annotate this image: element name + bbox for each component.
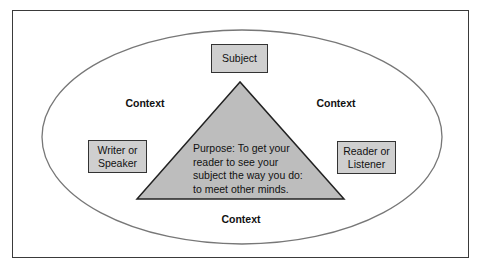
purpose-line-4: to meet other minds. [193, 183, 323, 197]
context-label-left: Context [125, 97, 164, 109]
reader-label-line-1: Reader or [343, 145, 390, 158]
context-label-bottom: Context [221, 213, 260, 225]
writer-speaker-box: Writer or Speaker [88, 140, 147, 173]
reader-label-line-2: Listener [348, 158, 385, 171]
diagram-shapes [0, 0, 480, 267]
context-label-right: Context [316, 97, 355, 109]
purpose-line-1: Purpose: To get your [193, 142, 323, 156]
writer-label-line-1: Writer or [97, 144, 137, 157]
purpose-text: Purpose: To get your reader to see your … [193, 142, 323, 196]
writer-label-line-2: Speaker [98, 157, 137, 170]
purpose-line-3: subject the way you do: [193, 169, 323, 183]
subject-box: Subject [211, 44, 268, 73]
reader-listener-box: Reader or Listener [337, 141, 396, 174]
subject-label: Subject [222, 52, 257, 65]
purpose-line-2: reader to see your [193, 156, 323, 170]
